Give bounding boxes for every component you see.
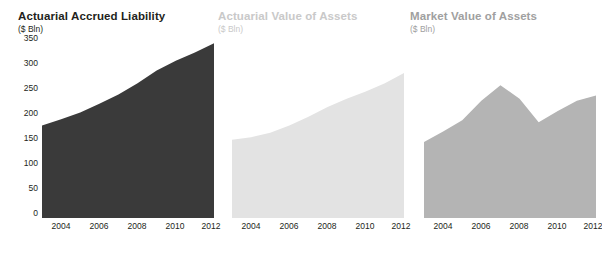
y-tick-250: 250: [24, 84, 38, 93]
panel-subtitle-3: ($ Bln): [410, 24, 595, 34]
x-axis-1: 2004 2006 2008 2010 2012: [42, 222, 214, 236]
y-tick-150: 150: [24, 134, 38, 143]
x-tick-2012-p3: 2012: [584, 222, 602, 231]
area-series-2: [232, 38, 404, 218]
area-series-3: [424, 38, 596, 218]
area-series-1: [42, 38, 214, 218]
chart-panel-actuarial-accrued-liability: Actuarial Accrued Liability ($ Bln) 350 …: [0, 10, 212, 256]
x-tick-2006-p1: 2006: [90, 222, 109, 231]
plot-area-2: 2004 2006 2008 2010 2012: [218, 38, 404, 234]
x-tick-2008-p1: 2008: [128, 222, 147, 231]
x-tick-2004-p3: 2004: [434, 222, 453, 231]
area-fill-2: [232, 73, 404, 218]
area-chart-svg-1: [42, 38, 214, 218]
x-tick-2004-p1: 2004: [52, 222, 71, 231]
y-tick-350: 350: [24, 34, 38, 43]
y-tick-50: 50: [29, 184, 38, 193]
area-chart-svg-3: [424, 38, 596, 218]
x-tick-2004-p2: 2004: [242, 222, 261, 231]
panel-subtitle-1: ($ Bln): [18, 24, 212, 34]
chart-panel-market-value-of-assets: Market Value of Assets ($ Bln) 2004 2006…: [404, 10, 595, 256]
panel-title-3: Market Value of Assets: [410, 10, 595, 23]
x-tick-2010-p3: 2010: [548, 222, 567, 231]
area-chart-svg-2: [232, 38, 404, 218]
area-fill-3: [424, 85, 596, 218]
y-tick-0: 0: [33, 209, 38, 218]
x-tick-2008-p3: 2008: [510, 222, 529, 231]
panel-title-1: Actuarial Accrued Liability: [18, 10, 212, 23]
area-fill-1: [42, 43, 214, 218]
x-axis-2: 2004 2006 2008 2010 2012: [232, 222, 404, 236]
plot-area-1: 350 300 250 200 150 100 50 0 2004 2006: [18, 38, 212, 234]
panel-subtitle-2: ($ Bln): [218, 24, 404, 34]
x-tick-2006-p3: 2006: [472, 222, 491, 231]
plot-area-3: 2004 2006 2008 2010 2012: [410, 38, 595, 234]
y-tick-100: 100: [24, 159, 38, 168]
x-tick-2008-p2: 2008: [318, 222, 337, 231]
panel-title-2: Actuarial Value of Assets: [218, 10, 404, 23]
x-tick-2010-p1: 2010: [166, 222, 185, 231]
chart-panel-actuarial-value-of-assets: Actuarial Value of Assets ($ Bln) 2004 2…: [212, 10, 404, 256]
x-tick-2010-p2: 2010: [356, 222, 375, 231]
y-axis-1: 350 300 250 200 150 100 50 0: [18, 38, 40, 218]
y-tick-200: 200: [24, 109, 38, 118]
x-tick-2006-p2: 2006: [280, 222, 299, 231]
x-axis-3: 2004 2006 2008 2010 2012: [424, 222, 596, 236]
y-tick-300: 300: [24, 59, 38, 68]
